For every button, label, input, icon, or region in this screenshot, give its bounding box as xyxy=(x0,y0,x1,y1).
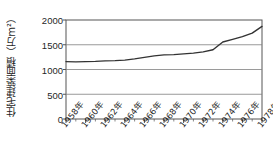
plot-area xyxy=(0,0,273,167)
data-series xyxy=(66,26,262,61)
chart-container: 住宅建築面積（万m²） 2000 1500 1000 500 0 1958年19… xyxy=(0,0,273,167)
